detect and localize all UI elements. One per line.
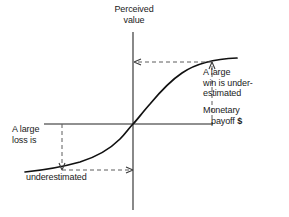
y-axis-label-line2: value [123,15,144,25]
x-axis-label-line1: Monetary [203,105,240,115]
annotation-large-win-line1: A large [203,67,230,77]
annotation-large-win: A largewin is under-estimated [203,67,287,99]
y-axis-label: Perceivedvalue [98,4,170,26]
x-axis-label-line2: payoff [211,116,235,126]
currency-symbol: $ [237,116,242,126]
annotation-large-win-line2: win is under- [203,78,253,88]
annotation-large-loss: A largeloss is [12,124,68,145]
annotation-large-loss-line1: A large [12,124,39,134]
annotation-underestimated: underestimated [26,172,136,183]
annotation-large-loss-line2: loss is [12,135,36,145]
annotation-large-win-line3: estimated [203,88,241,98]
y-axis-label-line1: Perceived [114,4,153,14]
figure-canvas: Perceivedvalue A largewin is under-estim… [0,0,289,217]
x-axis-label: Monetarypayoff $ [203,105,287,126]
